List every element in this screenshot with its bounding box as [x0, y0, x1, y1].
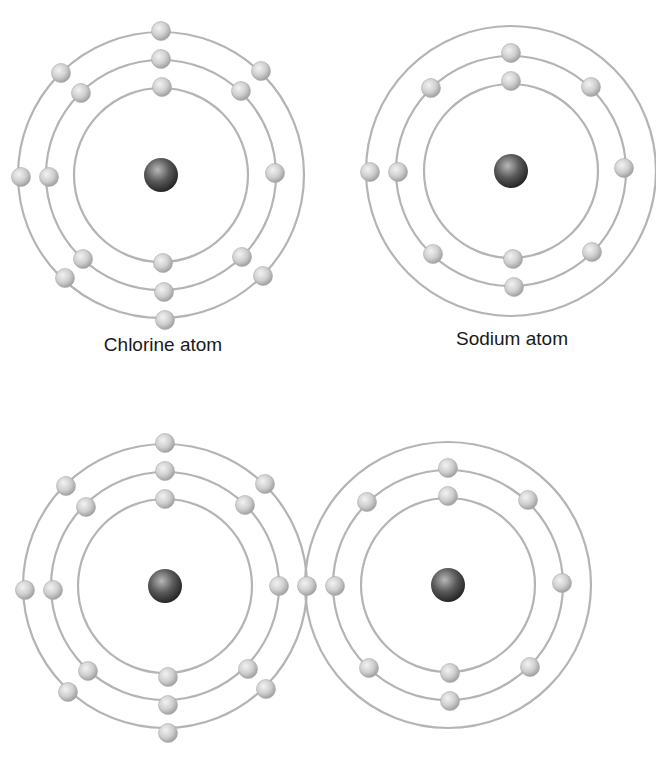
- nucleus-icon: [494, 154, 528, 188]
- electron-icon: [502, 44, 521, 63]
- orbits-layer: [18, 26, 656, 728]
- nuclei-layer: [144, 154, 528, 603]
- nucleus-icon: [144, 158, 178, 192]
- chlorine-atom-label: Chlorine atom: [104, 334, 222, 356]
- electron-icon: [156, 434, 175, 453]
- electron-icon: [439, 487, 458, 506]
- electron-icon: [156, 462, 175, 481]
- electron-icon: [254, 267, 273, 286]
- electron-icon: [152, 22, 171, 41]
- electron-icon: [389, 163, 408, 182]
- electron-icon: [257, 680, 276, 699]
- electron-icon: [59, 683, 78, 702]
- electron-icon: [582, 78, 601, 97]
- electron-icon: [361, 163, 380, 182]
- nucleus-icon: [148, 569, 182, 603]
- electron-icon: [79, 662, 98, 681]
- electron-icon: [153, 78, 172, 97]
- electron-icon: [12, 168, 31, 187]
- electron-icon: [424, 245, 443, 264]
- electron-icon: [156, 311, 175, 330]
- electron-icon: [152, 50, 171, 69]
- electron-icon: [326, 577, 345, 596]
- electron-icon: [52, 64, 71, 83]
- electron-icon: [236, 496, 255, 515]
- electron-icon: [77, 498, 96, 517]
- electron-icon: [56, 269, 75, 288]
- electrons-layer: [12, 22, 634, 743]
- electron-icon: [155, 283, 174, 302]
- electron-icon: [232, 82, 251, 101]
- ionic-bond-diagram: [0, 0, 656, 766]
- nucleus-icon: [431, 568, 465, 602]
- electron-icon: [553, 574, 572, 593]
- electron-icon: [298, 577, 317, 596]
- electron-icon: [615, 159, 634, 178]
- electron-icon: [441, 692, 460, 711]
- electron-icon: [441, 664, 460, 683]
- electron-icon: [358, 493, 377, 512]
- electron-icon: [154, 254, 173, 273]
- electron-icon: [505, 278, 524, 297]
- electron-icon: [270, 577, 289, 596]
- electron-icon: [504, 250, 523, 269]
- electron-icon: [252, 62, 271, 81]
- electron-icon: [239, 660, 258, 679]
- electron-icon: [583, 243, 602, 262]
- electron-icon: [74, 250, 93, 269]
- electron-icon: [40, 168, 59, 187]
- electron-icon: [502, 72, 521, 91]
- electron-icon: [159, 724, 178, 743]
- electron-icon: [72, 84, 91, 103]
- electron-icon: [156, 490, 175, 509]
- electron-icon: [233, 248, 252, 267]
- electron-icon: [519, 491, 538, 510]
- electron-icon: [266, 164, 285, 183]
- electron-icon: [360, 659, 379, 678]
- electron-icon: [159, 668, 178, 687]
- electron-icon: [57, 477, 76, 496]
- sodium-atom-label: Sodium atom: [456, 328, 568, 350]
- electron-icon: [422, 79, 441, 98]
- electron-icon: [16, 581, 35, 600]
- electron-icon: [159, 696, 178, 715]
- electron-icon: [44, 581, 63, 600]
- electron-icon: [521, 658, 540, 677]
- electron-icon: [256, 475, 275, 494]
- electron-icon: [439, 459, 458, 478]
